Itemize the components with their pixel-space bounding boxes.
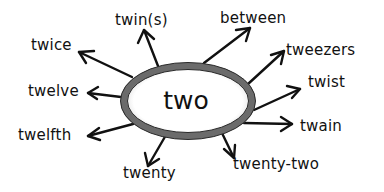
- arrow-tweezers: [248, 51, 284, 84]
- arrow-twist: [254, 86, 300, 110]
- arrow-twice: [79, 51, 132, 77]
- arrow-twenty-two: [221, 131, 235, 158]
- word-twenty-two: twenty-two: [233, 157, 319, 172]
- word-twice: twice: [31, 38, 72, 53]
- word-twelfth: twelfth: [18, 128, 71, 143]
- arrow-twins: [138, 30, 158, 66]
- arrow-twenty: [145, 135, 166, 166]
- word-twist: twist: [308, 75, 345, 90]
- center-word: two: [163, 88, 209, 113]
- arrow-between: [204, 28, 250, 63]
- word-twenty: twenty: [123, 166, 176, 181]
- word-tweezers: tweezers: [286, 43, 355, 58]
- arrow-twain: [244, 117, 292, 131]
- word-twelve: twelve: [28, 84, 79, 99]
- word-twain: twain: [300, 119, 342, 134]
- word-twins: twin(s): [115, 13, 168, 28]
- arrow-twelve: [88, 87, 121, 99]
- arrow-twelfth: [88, 124, 133, 140]
- word-between: between: [220, 11, 286, 26]
